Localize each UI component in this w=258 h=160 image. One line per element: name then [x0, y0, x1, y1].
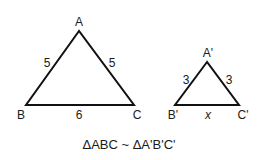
side-label-bc: 6 — [76, 109, 83, 121]
vertex-label-c: C — [133, 109, 142, 121]
vertex-label-a-prime: A' — [203, 47, 213, 59]
vertex-label-a: A — [75, 16, 83, 28]
vertex-label-c-prime: C' — [238, 109, 249, 121]
vertex-label-b: B — [17, 109, 25, 121]
side-label-a-prime-b-prime: 3 — [183, 74, 190, 86]
side-label-a-prime-c-prime: 3 — [226, 74, 233, 86]
side-label-ab: 5 — [44, 57, 51, 69]
side-label-ac: 5 — [109, 57, 116, 69]
triangle-abc — [26, 31, 134, 105]
similarity-caption: ΔABC ~ ΔA'B'C' — [82, 137, 175, 152]
vertex-label-b-prime: B' — [168, 109, 178, 121]
side-label-b-prime-c-prime: x — [205, 109, 211, 121]
